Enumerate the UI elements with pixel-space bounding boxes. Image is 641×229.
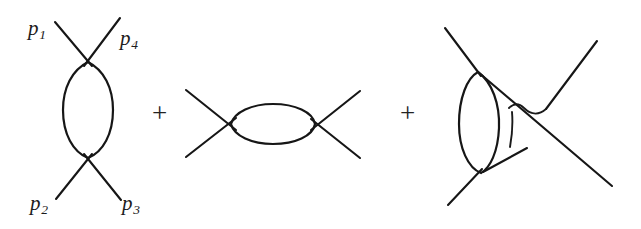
plus-operator-1: + xyxy=(152,100,167,127)
leg-upper-left xyxy=(445,28,481,76)
loop-bubble-vertical xyxy=(63,62,113,158)
momentum-label-p1: p1 xyxy=(28,18,46,41)
momentum-label-p2: p2 xyxy=(30,193,48,216)
leg-p2 xyxy=(56,154,92,199)
plus-operator-2: + xyxy=(400,100,415,127)
momentum-base-p2: p xyxy=(30,191,41,215)
feynman-diagram-figure: p1 p4 p2 p3 + + xyxy=(0,0,641,229)
propagator-bottom-diagonal xyxy=(483,148,527,172)
t-channel-bubble-diagram xyxy=(186,90,360,158)
momentum-subscript-p1: 1 xyxy=(39,27,46,42)
s-channel-bubble-diagram xyxy=(55,18,121,200)
diagram-canvas xyxy=(0,0,641,229)
leg-lower-left xyxy=(448,169,482,205)
leg-p4 xyxy=(84,18,120,66)
leg-p3 xyxy=(84,154,121,200)
crossed-box-diagram xyxy=(445,28,612,205)
loop-bubble-horizontal xyxy=(231,104,315,144)
momentum-label-p3: p3 xyxy=(122,193,140,216)
loop-bubble-vertical xyxy=(459,72,499,173)
momentum-subscript-p2: 2 xyxy=(41,202,48,217)
leg-lower-left xyxy=(186,118,236,157)
momentum-base-p3: p xyxy=(122,191,133,215)
leg-upper-right xyxy=(546,41,597,109)
momentum-subscript-p3: 3 xyxy=(133,202,140,217)
momentum-subscript-p4: 4 xyxy=(131,37,138,52)
momentum-label-p4: p4 xyxy=(120,28,138,51)
leg-p1 xyxy=(55,22,92,66)
line-hop-arc xyxy=(509,104,546,113)
momentum-base-p4: p xyxy=(120,26,131,50)
leg-lower-right xyxy=(311,119,360,158)
momentum-base-p1: p xyxy=(28,16,39,40)
propagator-hop-to-bottom-vertex xyxy=(510,112,512,147)
